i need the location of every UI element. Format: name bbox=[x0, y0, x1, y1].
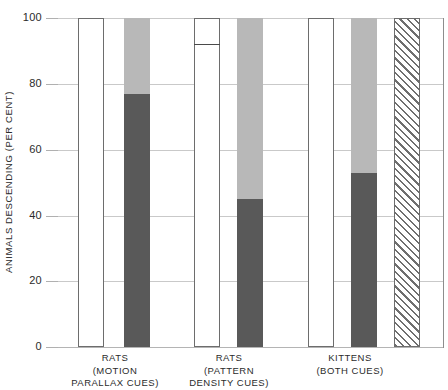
bar-group1-stacked[interactable] bbox=[124, 18, 150, 347]
y-tick-label-40: 40 bbox=[12, 209, 42, 221]
tick-stub-40 bbox=[46, 216, 58, 217]
y-tick-label-60: 60 bbox=[12, 143, 42, 155]
bar-segment-light bbox=[351, 18, 377, 173]
tick-stub-100 bbox=[46, 18, 58, 19]
tick-stub-20 bbox=[46, 281, 58, 282]
bar-segment-light bbox=[237, 18, 263, 199]
category-label-group2: RATS (PATTERN DENSITY CUES) bbox=[162, 352, 296, 390]
bar-group1-open[interactable] bbox=[78, 18, 104, 347]
y-tick-label-20: 20 bbox=[12, 274, 42, 286]
category-label-group3: KITTENS (BOTH CUES) bbox=[290, 352, 410, 377]
tick-stub-80 bbox=[46, 84, 58, 85]
bar-segment-dark bbox=[237, 199, 263, 347]
bar-segment-dark bbox=[351, 173, 377, 347]
axis-right-spine bbox=[443, 18, 444, 348]
bar-segment-dark bbox=[124, 94, 150, 347]
bar-group3-stacked[interactable] bbox=[351, 18, 377, 347]
bar-group3-open[interactable] bbox=[308, 18, 334, 347]
bar-segment-light bbox=[124, 18, 150, 94]
bar-group2-open[interactable] bbox=[194, 18, 220, 347]
gridline-0 bbox=[56, 347, 444, 348]
tick-stub-0 bbox=[46, 347, 58, 348]
bar-group3-hatched[interactable] bbox=[394, 18, 420, 347]
bar-group2-stacked[interactable] bbox=[237, 18, 263, 347]
y-tick-label-80: 80 bbox=[12, 77, 42, 89]
y-axis-title: ANIMALS DESCENDING (PER CENT) bbox=[0, 17, 18, 347]
bar-group2-open-marker-92 bbox=[194, 44, 221, 46]
y-tick-label-100: 100 bbox=[12, 11, 42, 23]
tick-stub-60 bbox=[46, 150, 58, 151]
y-tick-label-0: 0 bbox=[12, 340, 42, 352]
